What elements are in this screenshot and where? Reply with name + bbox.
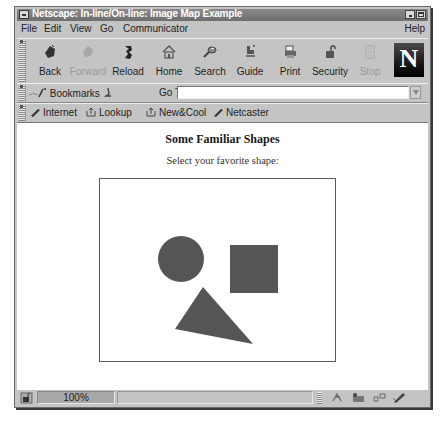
- security-lock-status-icon[interactable]: [20, 392, 33, 404]
- menu-go[interactable]: Go: [100, 23, 113, 34]
- location-url-input[interactable]: [177, 86, 409, 99]
- url-history-dropdown[interactable]: [410, 86, 421, 99]
- page-content: Some Familiar Shapes Select your favorit…: [17, 122, 428, 390]
- stop-button[interactable]: Stop: [350, 41, 390, 81]
- personal-item-netcaster[interactable]: Netcaster: [213, 107, 269, 118]
- forward-arrow-icon: [80, 44, 96, 60]
- bookmark-link-icon: [30, 107, 41, 117]
- navigator-component-icon[interactable]: [330, 391, 345, 404]
- bookmark-link-icon: [213, 107, 224, 117]
- maximize-button[interactable]: [416, 10, 426, 19]
- triangle-shape[interactable]: [175, 287, 253, 344]
- personal-toolbar: Internet Lookup New&Cool Netcaster: [17, 103, 428, 123]
- menu-communicator[interactable]: Communicator: [123, 23, 188, 34]
- menu-help[interactable]: Help: [404, 23, 425, 34]
- netscape-logo[interactable]: N: [394, 43, 424, 77]
- home-icon: [161, 44, 177, 60]
- menu-bar: File Edit View Go Communicator Help: [17, 22, 428, 37]
- print-icon: [282, 44, 298, 60]
- menu-file[interactable]: File: [21, 23, 37, 34]
- personal-item-lookup[interactable]: Lookup: [86, 107, 132, 118]
- shapes-image-map[interactable]: [99, 178, 336, 362]
- reload-button[interactable]: Reload: [108, 41, 148, 81]
- shapes-image: [100, 179, 335, 361]
- location-page-icon[interactable]: [103, 87, 113, 98]
- folder-icon: [86, 107, 97, 117]
- composer-component-icon[interactable]: [392, 391, 407, 404]
- browser-window: Netscape: In-line/On-line: Image Map Exa…: [14, 6, 431, 408]
- lock-icon: [322, 44, 338, 60]
- search-icon: [202, 44, 218, 60]
- location-toolbar: Bookmarks Go To:: [17, 83, 428, 103]
- minimize-button[interactable]: [405, 10, 415, 19]
- window-title: Netscape: In-line/On-line: Image Map Exa…: [32, 8, 242, 19]
- status-message: [117, 391, 313, 404]
- menu-view[interactable]: View: [70, 23, 92, 34]
- mail-component-icon[interactable]: [351, 391, 366, 404]
- menu-edit[interactable]: Edit: [44, 23, 61, 34]
- folder-icon: [146, 107, 157, 117]
- discussions-component-icon[interactable]: [372, 391, 387, 404]
- navigation-toolbar: Back Forward Reload Home Search Guide Pr…: [17, 38, 428, 84]
- status-bar: 100%: [17, 390, 428, 405]
- page-heading: Some Familiar Shapes: [17, 132, 428, 147]
- bookmarks-icon: [29, 88, 47, 98]
- reload-icon: [120, 44, 136, 60]
- home-button[interactable]: Home: [149, 41, 189, 81]
- component-bar-grip[interactable]: [317, 392, 322, 404]
- personal-toolbar-grip[interactable]: [19, 105, 26, 121]
- square-shape[interactable]: [230, 245, 278, 293]
- personal-item-new-cool[interactable]: New&Cool: [146, 107, 206, 118]
- bookmarks-button[interactable]: Bookmarks: [29, 87, 113, 99]
- guide-icon: [242, 44, 258, 60]
- window-menu-button[interactable]: [19, 10, 29, 19]
- location-toolbar-grip[interactable]: [19, 85, 26, 101]
- back-arrow-icon: [42, 44, 58, 60]
- circle-shape[interactable]: [158, 236, 204, 282]
- title-bar[interactable]: Netscape: In-line/On-line: Image Map Exa…: [17, 9, 428, 21]
- personal-item-internet[interactable]: Internet: [30, 107, 77, 118]
- page-instruction: Select your favorite shape:: [17, 155, 428, 166]
- progress-indicator: 100%: [37, 391, 115, 404]
- stop-icon: [362, 44, 378, 60]
